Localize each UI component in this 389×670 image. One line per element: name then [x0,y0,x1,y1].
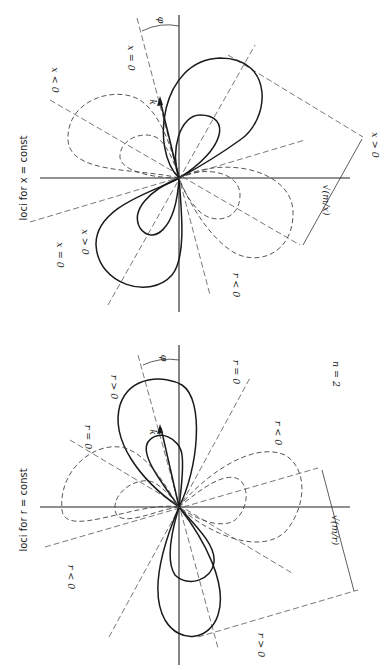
label-n: n = 2 [331,361,342,387]
solid-lobe-lower-small-bottom [170,507,214,581]
bottom-panel-title: loci for r = const [18,468,29,551]
label-phi-bottom: φ [159,355,170,362]
label-x-pos-right: x > 0 [370,132,381,157]
top-panel-title: loci for x = const [18,135,29,220]
label-r-neg-right: r < 0 [273,421,284,446]
label-k-top: k [148,99,159,105]
dashed-lobe-right-small-bottom [179,477,246,523]
label-dimension-bottom: √(m/r) [330,515,341,546]
top-panel: loci for x = const x < 0 x = 0 x = 0 x >… [18,15,381,312]
x-zero-line-2 [30,140,305,222]
dashed-lobe-left-large-bottom [62,447,179,522]
label-x-zero-bottom: x = 0 [55,242,66,267]
phi-arc [142,25,179,31]
label-r-neg: r < 0 [231,273,242,298]
dashed-lobe-right-large [179,167,293,258]
label-x-pos-bottom: x > 0 [80,229,91,254]
dimension-tangent-top [228,55,363,137]
label-x-zero-top: x = 0 [126,45,137,70]
label-x-neg-top: x < 0 [50,67,61,92]
label-r-pos-bottom: r > 0 [256,633,267,658]
solid-lobe-lower-large [96,178,182,287]
label-phi-top: φ [156,17,167,24]
label-dimension-top: √(m/x) [321,184,332,215]
label-r-zero-left: r = 0 [83,425,94,450]
bottom-panel: loci for r = const r > 0 r = 0 r = 0 r <… [18,345,358,665]
k-vector [160,100,179,178]
figure-canvas: loci for x = const x < 0 x = 0 x = 0 x >… [0,0,389,670]
label-r-pos-top: r > 0 [109,375,120,400]
label-k-bottom: k [148,429,159,435]
label-r-neg-left: r < 0 [66,565,77,590]
solid-lobe-lower-small [137,178,179,235]
dimension-tangent-bottom [198,590,358,637]
solid-lobe-upper-large-bottom [118,379,196,507]
x-pos-axis-line [108,45,255,305]
label-r-zero-right: r = 0 [231,360,242,385]
